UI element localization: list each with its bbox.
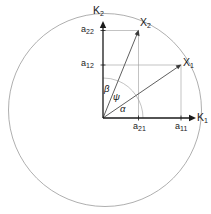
k2-axis [100, 21, 106, 118]
diagram-canvas [0, 0, 211, 214]
axis-label-k2: K2 [93, 5, 104, 17]
vector-diagram-figure: K2 K1 X2 X1 a22 a12 a21 a11 β ψ α [0, 0, 211, 214]
unit-circle [9, 14, 202, 207]
k1-axis [103, 115, 196, 121]
angle-label-alpha: α [120, 104, 125, 114]
angle-label-psi: ψ [113, 92, 120, 102]
projection-lines [103, 31, 181, 119]
angle-label-beta: β [104, 84, 109, 94]
axis-ticks [101, 31, 182, 121]
component-label-a11: a11 [175, 122, 187, 132]
point-label-x1: X1 [183, 57, 194, 69]
component-label-a12: a12 [81, 59, 94, 69]
component-label-a21: a21 [133, 122, 146, 132]
point-label-x2: X2 [140, 17, 151, 29]
component-label-a22: a22 [81, 25, 94, 35]
axis-label-k1: K1 [197, 112, 208, 124]
